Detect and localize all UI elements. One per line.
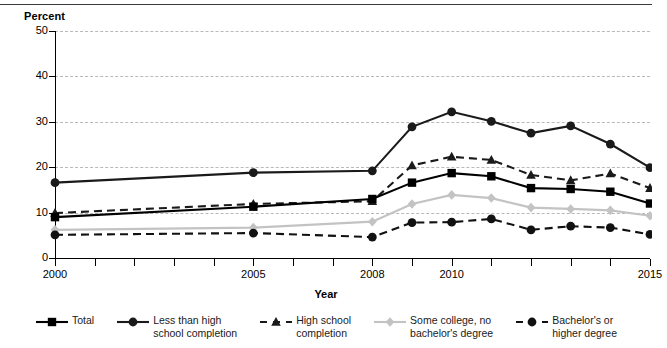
- legend-swatch-circle-icon: [515, 315, 549, 329]
- legend-label-0: Total: [72, 314, 94, 327]
- x-tick-mark-2011: [491, 259, 492, 266]
- legend-label-1: Less than high school completion: [153, 314, 237, 339]
- x-tick-mark-2006: [293, 259, 294, 266]
- y-tick-label-0: 0: [8, 251, 48, 263]
- x-tick-mark-2008: [372, 259, 373, 266]
- top-divider: [0, 4, 652, 5]
- x-tick-mark-2004: [214, 259, 215, 266]
- legend-swatch-triangle-icon: [259, 315, 293, 329]
- legend-label-3: Some college, no bachelor's degree: [410, 314, 493, 339]
- x-tick-mark-2010: [452, 259, 453, 266]
- legend-label-4: Bachelor's or higher degree: [552, 314, 617, 339]
- gridline-50: [55, 31, 650, 32]
- x-tick-label-2000: 2000: [33, 268, 77, 280]
- x-tick-label-2010: 2010: [430, 268, 474, 280]
- x-tick-mark-2015: [650, 259, 651, 266]
- legend-item-4[interactable]: Bachelor's or higher degree: [515, 314, 617, 339]
- legend-item-3[interactable]: Some college, no bachelor's degree: [373, 314, 493, 339]
- x-axis-line: [55, 258, 650, 259]
- x-tick-label-2015: 2015: [628, 268, 667, 280]
- legend-item-0[interactable]: Total: [35, 314, 94, 329]
- x-tick-mark-2009: [412, 259, 413, 266]
- series-1: [51, 107, 652, 187]
- legend-swatch-circle-icon: [116, 315, 150, 329]
- y-tick-label-30: 30: [8, 115, 48, 127]
- y-tick-label-40: 40: [8, 69, 48, 81]
- gridline-10: [55, 213, 650, 214]
- x-tick-mark-2013: [571, 259, 572, 266]
- legend-item-1[interactable]: Less than high school completion: [116, 314, 237, 339]
- y-axis-title: Percent: [24, 10, 65, 22]
- legend-label-2: High school completion: [296, 314, 351, 339]
- legend-swatch-diamond-icon: [373, 315, 407, 329]
- x-tick-mark-2014: [610, 259, 611, 266]
- y-tick-label-20: 20: [8, 160, 48, 172]
- x-tick-mark-2007: [333, 259, 334, 266]
- x-tick-mark-2003: [174, 259, 175, 266]
- legend-swatch-square-icon: [35, 315, 69, 329]
- x-axis-title: Year: [0, 288, 652, 300]
- gridline-20: [55, 167, 650, 168]
- x-tick-mark-2000: [55, 259, 56, 266]
- x-tick-mark-2002: [134, 259, 135, 266]
- chart-legend: TotalLess than high school completionHig…: [0, 314, 652, 348]
- gridline-30: [55, 122, 650, 123]
- x-tick-label-2008: 2008: [350, 268, 394, 280]
- series-2: [50, 152, 652, 217]
- legend-item-2[interactable]: High school completion: [259, 314, 351, 339]
- x-tick-label-2005: 2005: [231, 268, 275, 280]
- y-axis-line: [55, 31, 56, 259]
- y-tick-label-50: 50: [8, 24, 48, 36]
- y-tick-label-10: 10: [8, 206, 48, 218]
- x-tick-mark-2001: [95, 259, 96, 266]
- gridline-40: [55, 76, 650, 77]
- series-4: [51, 215, 652, 242]
- x-tick-mark-2005: [253, 259, 254, 266]
- x-tick-mark-2012: [531, 259, 532, 266]
